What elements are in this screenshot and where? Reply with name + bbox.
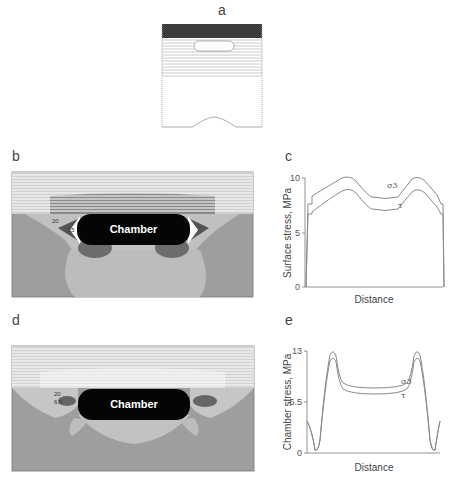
panel-b-stress-contour: Chamber 20 15 bbox=[0, 0, 452, 487]
chart-c-surface-stress: 10 5 0 σ3 τ Distance Surface stress, MPa bbox=[0, 0, 452, 487]
chart-c-ytick-10: 10 bbox=[290, 173, 300, 183]
panel-a-chamber bbox=[194, 41, 234, 51]
panel-d-contour-tag-2: 6.5 bbox=[54, 399, 63, 405]
panel-letter-e: e bbox=[285, 312, 293, 328]
chart-e-ytick-0: 0 bbox=[297, 448, 302, 458]
chart-e-series-sigma3 bbox=[307, 352, 440, 451]
chart-c-series-tau bbox=[306, 189, 444, 287]
chart-c-label-tau: τ bbox=[398, 201, 403, 210]
panel-a-model-diagram bbox=[0, 0, 452, 487]
panel-d-stress-contour: Chamber 20 6.5 bbox=[0, 0, 452, 487]
panel-d: Chamber 20 6.5 bbox=[12, 346, 254, 471]
chart-c-ytick-0: 0 bbox=[295, 282, 300, 292]
chart-e: 13 6.5 0 σ3 τ Distance Chamber stress, M… bbox=[282, 346, 440, 473]
panel-a bbox=[162, 24, 262, 127]
chart-c: 10 5 0 σ3 τ Distance Surface stress, MPa bbox=[282, 173, 444, 305]
chart-e-label-tau: τ bbox=[401, 391, 406, 400]
chart-e-ylabel: Chamber stress, MPa bbox=[282, 353, 293, 450]
chart-e-xlabel: Distance bbox=[355, 462, 394, 473]
panel-d-chamber-label: Chamber bbox=[110, 398, 158, 410]
chart-c-series-sigma3 bbox=[306, 177, 444, 287]
panel-b-chamber-label: Chamber bbox=[110, 223, 158, 235]
chart-e-label-sigma3: σ3 bbox=[401, 377, 412, 386]
chart-e-ytick-13: 13 bbox=[292, 346, 302, 356]
panel-b-chamber bbox=[77, 214, 190, 245]
chart-c-ylabel: Surface stress, MPa bbox=[282, 188, 293, 278]
chart-e-chamber-stress: 13 6.5 0 σ3 τ Distance Chamber stress, M… bbox=[0, 0, 452, 487]
panel-b: Chamber 20 15 bbox=[12, 172, 253, 297]
panel-d-chamber bbox=[78, 389, 190, 420]
chart-c-label-sigma3: σ3 bbox=[387, 181, 398, 190]
panel-letter-a: a bbox=[218, 2, 226, 18]
panel-letter-c: c bbox=[285, 148, 292, 164]
chart-e-series-tau bbox=[307, 358, 440, 450]
chart-c-xlabel: Distance bbox=[355, 294, 394, 305]
chart-c-ytick-5: 5 bbox=[295, 228, 300, 238]
panel-letter-d: d bbox=[12, 312, 20, 328]
panel-d-contour-tag-1: 20 bbox=[54, 391, 61, 397]
panel-letter-b: b bbox=[12, 148, 20, 164]
panel-b-contour-tag-2: 15 bbox=[68, 227, 75, 233]
panel-b-contour-tag-1: 20 bbox=[52, 218, 59, 224]
chart-e-ytick-6.5: 6.5 bbox=[289, 397, 302, 407]
